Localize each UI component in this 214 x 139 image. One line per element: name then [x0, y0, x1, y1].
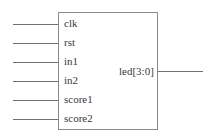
- input-wire-in1: [13, 62, 58, 63]
- port-label-in1: in1: [64, 55, 78, 67]
- output-wire-led: [158, 71, 203, 72]
- port-label-score1: score1: [64, 93, 93, 105]
- port-label-score2: score2: [64, 112, 93, 124]
- port-label-in2: in2: [64, 74, 78, 86]
- input-wire-score2: [13, 119, 58, 120]
- port-label-led: led[3:0]: [119, 65, 154, 77]
- input-wire-rst: [13, 43, 58, 44]
- input-wire-score1: [13, 100, 58, 101]
- port-label-clk: clk: [64, 17, 77, 29]
- input-wire-in2: [13, 81, 58, 82]
- input-wire-clk: [13, 24, 58, 25]
- port-label-rst: rst: [64, 36, 75, 48]
